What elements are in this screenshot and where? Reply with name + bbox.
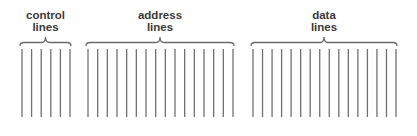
control-lines-group	[20, 37, 71, 117]
address-brace	[86, 37, 234, 46]
lines-label-word: lines	[311, 22, 337, 34]
lines-label-word: lines	[138, 22, 182, 34]
control-label-word: control	[26, 10, 65, 22]
data-label-word: data	[311, 10, 337, 22]
data-lines-group	[251, 37, 397, 117]
data-brace	[251, 37, 397, 46]
control-lines-label: control lines	[26, 10, 65, 33]
address-label-word: address	[138, 10, 182, 22]
address-lines-label: address lines	[138, 10, 182, 33]
lines-label-word: lines	[26, 22, 65, 34]
control-brace	[20, 37, 71, 46]
data-lines-label: data lines	[311, 10, 337, 33]
address-lines-group	[86, 37, 234, 117]
